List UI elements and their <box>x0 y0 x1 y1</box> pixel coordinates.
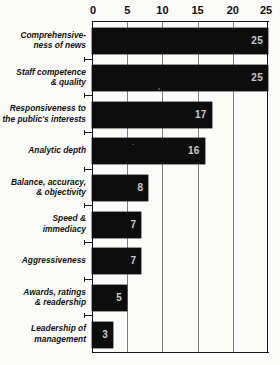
bar-row: 25 <box>92 65 268 91</box>
bar-value-label: 7 <box>130 256 136 266</box>
bar-value-label: 8 <box>137 183 143 193</box>
bar-row: 7 <box>92 212 268 238</box>
category-label: Staff competence& quality <box>0 67 86 88</box>
x-tick-label-20: 20 <box>227 4 239 16</box>
y-axis-tick <box>84 279 92 280</box>
category-label: Analytic depth <box>0 145 86 155</box>
x-tick-label-10: 10 <box>156 4 168 16</box>
y-axis-tick <box>84 59 92 60</box>
bar-value-label: 17 <box>195 110 207 120</box>
bar: 8 <box>92 175 148 201</box>
bar-row: 7 <box>92 248 268 274</box>
bar-value-label: 25 <box>251 36 263 46</box>
category-label-line: ness of news <box>0 40 86 50</box>
bar: 7 <box>92 248 141 274</box>
category-label: Balance, accuracy,& objectivity <box>0 177 86 198</box>
bar: 25 <box>92 65 268 91</box>
bar-value-label: 5 <box>116 293 122 303</box>
category-label: Speed &immediacy <box>0 213 86 234</box>
x-tick-label-0: 0 <box>90 4 96 16</box>
category-label-line: & objectivity <box>0 187 86 197</box>
category-label-line: Balance, accuracy, <box>0 177 86 187</box>
category-label-line: Analytic depth <box>0 145 86 155</box>
x-tick-label-5: 5 <box>124 4 130 16</box>
bar-row: 16 <box>92 138 268 164</box>
category-label-line: & readership <box>0 297 86 307</box>
axis-line-bottom <box>92 352 269 353</box>
y-axis-tick <box>84 95 92 96</box>
y-axis-tick <box>84 315 92 316</box>
bar-value-label: 16 <box>188 146 200 156</box>
category-label-line: Speed & <box>0 213 86 223</box>
x-tick-label-15: 15 <box>191 4 203 16</box>
bar: 5 <box>92 285 127 311</box>
category-label: Awards, ratings& readership <box>0 287 86 308</box>
bar-value-label: 25 <box>251 73 263 83</box>
bar-row: 5 <box>92 285 268 311</box>
x-axis-tick-labels: 0510152025 <box>92 4 268 20</box>
category-label-line: Aggressiveness <box>0 255 86 265</box>
category-label: Responsiveness tothe public's interests <box>0 103 86 124</box>
bar: 7 <box>92 212 141 238</box>
category-label-line: immediacy <box>0 224 86 234</box>
category-label-line: Responsiveness to <box>0 103 86 113</box>
y-axis-tick <box>84 242 92 243</box>
category-label-line: Staff competence <box>0 67 86 77</box>
bar-row: 8 <box>92 175 268 201</box>
category-label-line: Awards, ratings <box>0 287 86 297</box>
plot-area: 2525171687753 <box>92 22 268 352</box>
category-label-line: management <box>0 334 86 344</box>
category-label-line: & quality <box>0 77 86 87</box>
bar: 25 <box>92 28 268 54</box>
bar: 17 <box>92 102 212 128</box>
y-axis-tick <box>84 169 92 170</box>
bar-value-label: 3 <box>102 330 108 340</box>
category-label-line: Leadership of <box>0 323 86 333</box>
x-tick-label-25: 25 <box>260 4 272 16</box>
bar-row: 17 <box>92 102 268 128</box>
category-label: Leadership ofmanagement <box>0 323 86 344</box>
category-label-line: Comprehensive- <box>0 30 86 40</box>
y-axis-tick <box>84 205 92 206</box>
category-label: Aggressiveness <box>0 255 86 265</box>
bar-value-label: 7 <box>130 220 136 230</box>
category-label: Comprehensive-ness of news <box>0 30 86 51</box>
bar-row: 25 <box>92 28 268 54</box>
bar: 16 <box>92 138 205 164</box>
category-label-line: the public's interests <box>0 114 86 124</box>
y-axis-tick <box>84 132 92 133</box>
bar-chart: 0510152025 2525171687753 Comprehensive-n… <box>0 0 280 365</box>
bar-row: 3 <box>92 322 268 348</box>
bar: 3 <box>92 322 113 348</box>
